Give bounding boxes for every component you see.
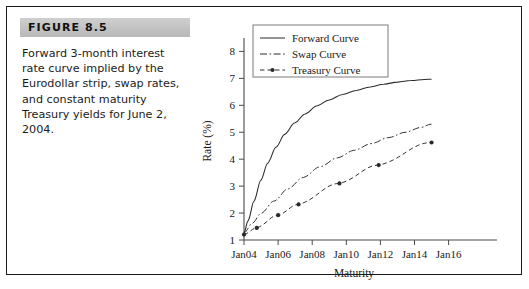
data-point-marker xyxy=(377,163,381,167)
legend-label-treasury-curve: Treasury Curve xyxy=(292,64,360,76)
data-point-marker xyxy=(242,233,246,237)
chart-plot-area: 12345678Jan04Jan06Jan08Jan10Jan12Jan14Ja… xyxy=(197,13,527,283)
data-point-marker xyxy=(337,181,341,185)
data-point-marker xyxy=(276,213,280,217)
data-point-marker xyxy=(429,140,433,144)
x-tick-label: Jan04 xyxy=(231,248,257,260)
data-point-marker xyxy=(296,202,300,206)
legend-marker xyxy=(270,68,274,72)
legend-label-forward-curve: Forward Curve xyxy=(292,32,359,44)
series-line-treasury-curve xyxy=(244,142,432,234)
figure-number-label: FIGURE 8.5 xyxy=(20,21,108,34)
figure-frame: FIGURE 8.5 Forward 3-month interest rate… xyxy=(6,6,522,275)
rate-curve-chart: 12345678Jan04Jan06Jan08Jan10Jan12Jan14Ja… xyxy=(197,13,527,283)
x-tick-label: Jan06 xyxy=(265,248,291,260)
figure-banner: FIGURE 8.5 xyxy=(20,18,190,37)
data-point-marker xyxy=(255,226,259,230)
series-line-forward-curve xyxy=(244,79,432,233)
figure-caption-text: Forward 3-month interest rate curve impl… xyxy=(20,46,182,137)
y-tick-label: 5 xyxy=(230,126,236,138)
x-axis-title: Maturity xyxy=(334,267,374,280)
x-tick-label: Jan10 xyxy=(333,248,359,260)
y-tick-label: 8 xyxy=(230,45,236,57)
caption-block: FIGURE 8.5 Forward 3-month interest rate… xyxy=(20,18,196,137)
figure-page: FIGURE 8.5 Forward 3-month interest rate… xyxy=(0,0,529,289)
y-tick-label: 6 xyxy=(230,99,236,111)
y-tick-label: 3 xyxy=(230,180,236,192)
x-tick-label: Jan08 xyxy=(299,248,325,260)
y-tick-label: 1 xyxy=(230,234,236,246)
x-tick-label: Jan12 xyxy=(368,248,394,260)
y-tick-label: 7 xyxy=(230,72,236,84)
y-tick-label: 4 xyxy=(230,153,236,165)
y-tick-label: 2 xyxy=(230,207,236,219)
legend-label-swap-curve: Swap Curve xyxy=(292,48,346,60)
x-tick-label: Jan14 xyxy=(402,248,428,260)
y-axis-title: Rate (%) xyxy=(201,120,214,161)
x-tick-label: Jan16 xyxy=(436,248,462,260)
